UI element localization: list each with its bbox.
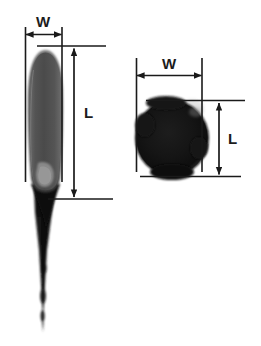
- right-width-label: W: [162, 55, 177, 72]
- left-width-label: W: [36, 13, 51, 30]
- comet-head: [28, 50, 63, 193]
- right-length-label: L: [228, 130, 237, 147]
- left-length-label: L: [84, 104, 93, 121]
- measurement-figure: W L: [0, 0, 261, 346]
- figure-container: W L: [0, 0, 261, 346]
